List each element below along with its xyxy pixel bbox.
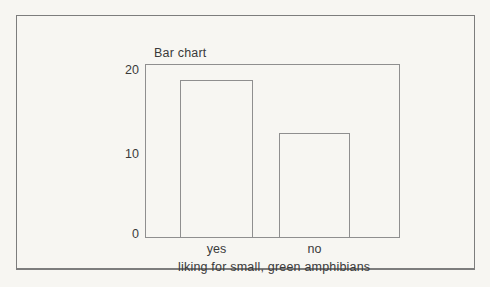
x-category-label-no: no <box>278 242 351 256</box>
x-category-label-yes: yes <box>179 242 254 256</box>
y-axis-tick-20: 20 <box>105 63 139 77</box>
bar-no <box>279 133 350 237</box>
y-axis-tick-10: 10 <box>105 147 139 161</box>
y-axis-tick-0: 0 <box>105 227 139 241</box>
bar-yes <box>180 80 253 237</box>
scanned-figure-page: Bar chart 20 10 0 yes no liking for smal… <box>0 0 490 287</box>
plot-area <box>145 64 400 238</box>
x-axis-label: liking for small, green amphibians <box>178 260 370 274</box>
chart-title: Bar chart <box>154 46 207 60</box>
figure-border-box: Bar chart 20 10 0 yes no liking for smal… <box>16 15 475 270</box>
